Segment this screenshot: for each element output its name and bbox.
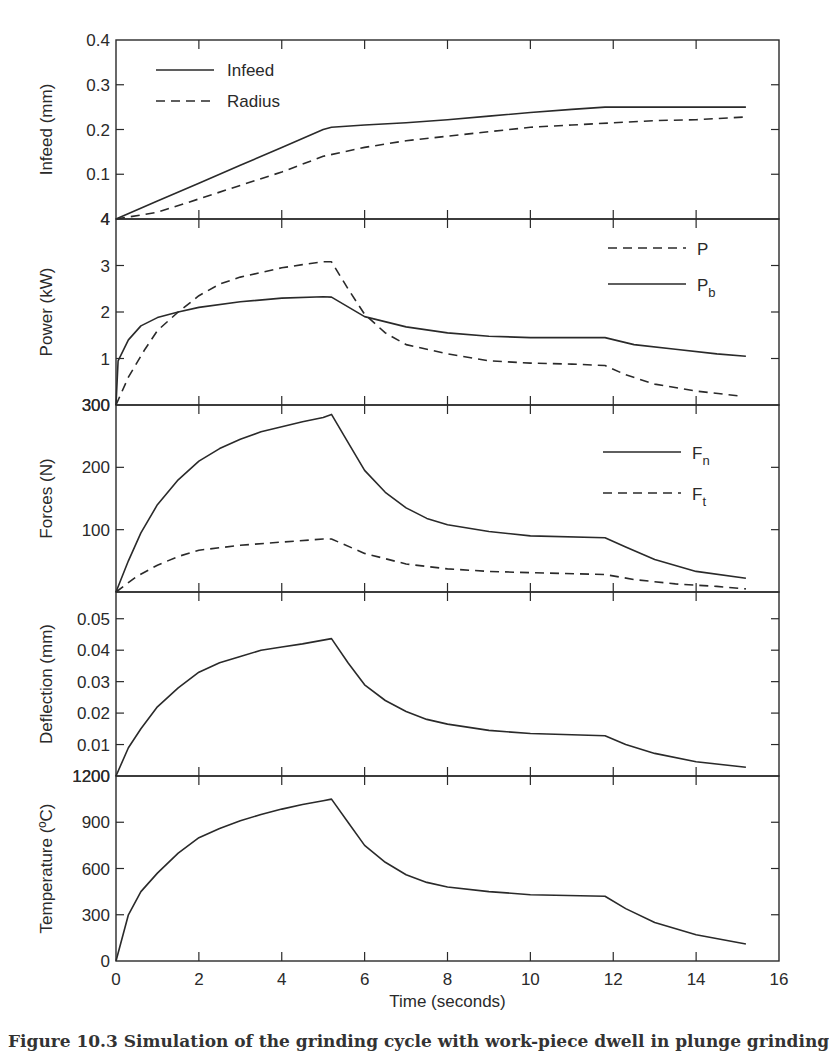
x-axis-label: Time (seconds) (389, 992, 506, 1011)
y-tick-label: 4 (101, 210, 110, 229)
y-tick-label: 600 (82, 860, 110, 879)
legend-label: Pb (697, 276, 716, 300)
series-line (116, 639, 746, 776)
panel-5: 12009006003000Temperature (ºC) (37, 767, 779, 971)
legend-label: Ft (692, 485, 706, 509)
x-tick-label: 0 (111, 970, 120, 989)
plot-frame (116, 592, 779, 776)
y-tick-label: 0.3 (86, 76, 110, 95)
series-line (116, 539, 746, 592)
y-axis-label: Infeed (mm) (37, 84, 56, 176)
y-axis-label: Temperature (ºC) (37, 804, 56, 934)
y-tick-label: 0 (101, 952, 110, 971)
plot-frame (116, 405, 779, 592)
x-tick-label: 10 (521, 970, 540, 989)
figure-caption: Figure 10.3 Simulation of the grinding c… (8, 1031, 823, 1051)
y-tick-label: 0.4 (86, 31, 110, 50)
panel-1: 0.40.30.20.14Infeed (mm)InfeedRadius (37, 31, 779, 229)
legend-label: P (697, 240, 708, 259)
panel-2: 4321300Power (kW)PPb (37, 210, 779, 415)
panel-4: 0.050.040.030.020.011200Deflection (mm) (37, 592, 779, 786)
y-tick-label: 0.01 (77, 736, 110, 755)
y-tick-label: 900 (82, 813, 110, 832)
y-tick-label: 0.02 (77, 704, 110, 723)
y-tick-label: 0.05 (77, 610, 110, 629)
y-axis-label: Deflection (mm) (37, 624, 56, 744)
legend-label: Fn (692, 444, 710, 468)
x-tick-label: 16 (770, 970, 789, 989)
x-tick-label: 14 (687, 970, 706, 989)
x-tick-label: 12 (604, 970, 623, 989)
y-tick-label: 300 (82, 906, 110, 925)
y-tick-label: 2 (101, 303, 110, 322)
series-line (116, 414, 746, 592)
y-tick-label: 0.2 (86, 121, 110, 140)
x-tick-label: 6 (360, 970, 369, 989)
y-tick-label: 100 (82, 521, 110, 540)
y-tick-label: 1 (101, 350, 110, 369)
y-tick-label: 1200 (72, 767, 110, 786)
series-line (116, 262, 738, 405)
series-line (116, 107, 746, 219)
y-tick-label: 0.03 (77, 673, 110, 692)
plot-frame (116, 219, 779, 405)
series-line (116, 297, 746, 405)
plot-frame (116, 40, 779, 219)
y-tick-label: 0.04 (77, 641, 110, 660)
x-tick-label: 4 (277, 970, 286, 989)
y-tick-label: 0.1 (86, 165, 110, 184)
y-tick-label: 200 (82, 458, 110, 477)
y-tick-label: 300 (82, 396, 110, 415)
legend-label: Infeed (227, 61, 274, 80)
y-axis-label: Power (kW) (37, 268, 56, 357)
x-tick-label: 2 (194, 970, 203, 989)
series-line (116, 799, 746, 961)
panel-3: 300200100Forces (N)FnFt (37, 396, 779, 592)
x-tick-label: 8 (443, 970, 452, 989)
legend-label: Radius (227, 92, 280, 111)
series-line (116, 117, 746, 219)
y-tick-label: 3 (101, 257, 110, 276)
y-axis-label: Forces (N) (37, 458, 56, 538)
plot-frame (116, 776, 779, 961)
